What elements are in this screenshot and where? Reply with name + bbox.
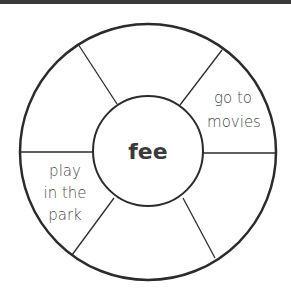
word-wheel-diagram: fee go to movies play in the park xyxy=(0,0,291,299)
segment-left-line-1: play xyxy=(49,162,81,180)
segment-upper-right-line-2: movies xyxy=(207,113,261,131)
spoke-lower-right xyxy=(183,198,215,258)
segment-upper-right-line-1: go to xyxy=(214,89,252,107)
spoke-upper-left xyxy=(78,44,117,104)
segment-left-line-3: park xyxy=(48,206,82,224)
segment-left-line-2: in the xyxy=(43,184,86,202)
center-word: fee xyxy=(128,139,167,164)
